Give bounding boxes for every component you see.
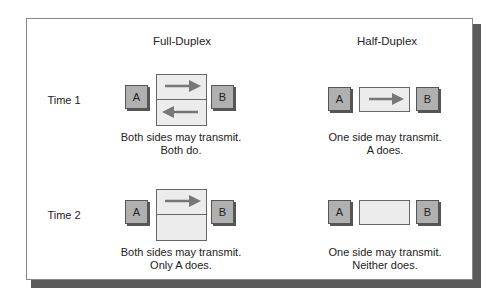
node-a: A <box>125 200 148 224</box>
caption-line-1: Both sides may transmit. <box>111 131 251 144</box>
channel-lower <box>157 100 206 125</box>
half-duplex-channel <box>359 200 410 225</box>
arrow-right-icon <box>157 190 206 214</box>
half-duplex-title: Half-Duplex <box>345 35 429 48</box>
caption-line-1: One side may transmit. <box>315 131 455 144</box>
caption-line-2: A does. <box>315 144 455 157</box>
node-b: B <box>416 87 439 111</box>
full-duplex-channel <box>156 74 207 126</box>
node-a: A <box>328 200 351 224</box>
caption-line-1: One side may transmit. <box>315 246 455 259</box>
row-label-time-1: Time 1 <box>44 94 84 107</box>
channel-upper <box>157 190 206 215</box>
channel-upper <box>157 75 206 100</box>
node-a: A <box>328 87 351 111</box>
caption-line-2: Only A does. <box>111 259 251 272</box>
arrow-right-icon <box>157 75 206 99</box>
row-label-time-2: Time 2 <box>44 209 84 222</box>
node-b: B <box>211 200 234 224</box>
channel-lower <box>157 215 206 240</box>
arrow-right-icon <box>360 88 409 111</box>
full-duplex-channel <box>156 189 207 241</box>
caption-line-2: Neither does. <box>315 259 455 272</box>
node-a: A <box>125 85 148 109</box>
node-b: B <box>416 200 439 224</box>
caption-line-2: Both do. <box>111 144 251 157</box>
full-duplex-title: Full-Duplex <box>140 35 224 48</box>
caption-line-1: Both sides may transmit. <box>111 246 251 259</box>
half-duplex-channel <box>359 87 410 112</box>
node-b: B <box>211 85 234 109</box>
arrow-left-icon <box>157 100 206 124</box>
